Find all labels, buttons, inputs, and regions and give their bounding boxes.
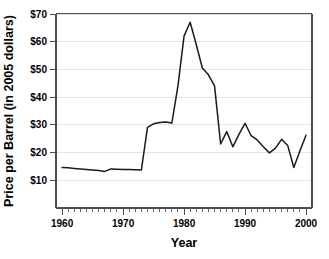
y-axis-title: Price per Barrel (in 2005 dollars) <box>2 15 16 207</box>
x-tick-label-2000: 2000 <box>295 218 318 229</box>
y-tick-label-60: $60 <box>30 36 47 47</box>
y-tick-label-40: $40 <box>30 92 47 103</box>
x-axis-title: Year <box>171 236 198 250</box>
x-tick-label-1960: 1960 <box>51 218 74 229</box>
y-tick-marks <box>50 14 56 180</box>
x-tick-labels: 1960 1970 1980 1990 2000 <box>51 218 318 229</box>
y-tick-label-10: $10 <box>30 175 47 186</box>
oil-price-line-chart: $70 $60 $50 $40 $30 $20 $10 1960 1970 19… <box>0 0 329 259</box>
y-tick-label-30: $30 <box>30 119 47 130</box>
y-tick-labels: $70 $60 $50 $40 $30 $20 $10 <box>30 9 47 186</box>
x-tick-label-1990: 1990 <box>234 218 257 229</box>
chart-figure: $70 $60 $50 $40 $30 $20 $10 1960 1970 19… <box>0 0 329 259</box>
x-tick-label-1980: 1980 <box>173 218 196 229</box>
y-tick-label-70: $70 <box>30 9 47 20</box>
y-tick-label-50: $50 <box>30 64 47 75</box>
y-tick-label-20: $20 <box>30 147 47 158</box>
x-tick-label-1970: 1970 <box>112 218 135 229</box>
